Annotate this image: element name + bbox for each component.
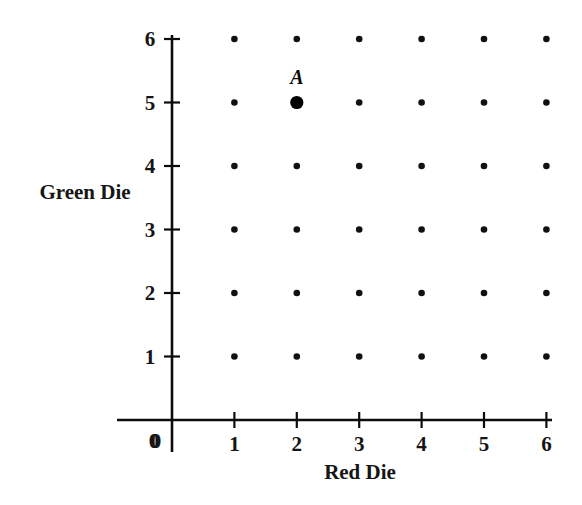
highlighted-point-marker [290, 96, 303, 109]
y-tick-label-2: 2 [145, 283, 156, 304]
outcome-dot [481, 99, 488, 106]
outcome-dot [418, 163, 425, 170]
outcome-dot [356, 36, 363, 43]
outcome-dot [231, 36, 238, 43]
outcome-dot [543, 226, 550, 233]
x-tick-label-4: 4 [416, 434, 427, 455]
outcome-dot [543, 290, 550, 297]
point-annotation-A: A [290, 67, 303, 87]
outcome-dot [481, 290, 488, 297]
outcome-dot [356, 163, 363, 170]
outcome-dot [294, 290, 301, 297]
outcome-dot [481, 353, 488, 360]
y-tick-label-4: 4 [145, 156, 156, 177]
tick-marks-group [164, 39, 546, 428]
scatter-plot-figure: 01234560123456Green DieRed DieA [0, 0, 582, 505]
outcome-dot [294, 163, 301, 170]
outcome-dot [418, 36, 425, 43]
outcome-dot [356, 290, 363, 297]
outcome-dot [481, 36, 488, 43]
outcome-dot [543, 99, 550, 106]
outcome-dot [356, 353, 363, 360]
y-tick-label-6: 6 [145, 29, 156, 50]
x-axis-title: Red Die [324, 462, 396, 483]
outcome-dot [418, 99, 425, 106]
outcome-dot [481, 226, 488, 233]
x-tick-label-6: 6 [541, 434, 552, 455]
outcome-dot [481, 163, 488, 170]
outcome-dot [231, 99, 238, 106]
y-tick-label-3: 3 [145, 219, 156, 240]
axes-group [117, 35, 552, 452]
outcome-dot [543, 163, 550, 170]
outcome-dot [418, 353, 425, 360]
x-tick-label-2: 2 [292, 434, 303, 455]
x-tick-label-5: 5 [479, 434, 490, 455]
y-tick-label-5: 5 [145, 92, 156, 113]
outcome-dot [231, 353, 238, 360]
y-tick-label-1: 1 [145, 346, 156, 367]
outcome-dot [294, 226, 301, 233]
outcome-dot [543, 36, 550, 43]
outcome-dot [418, 226, 425, 233]
y-tick-label-0: 0 [149, 431, 160, 452]
outcome-dot [543, 353, 550, 360]
outcome-dot [231, 163, 238, 170]
data-points-group [231, 36, 550, 360]
y-axis-title: Green Die [39, 182, 130, 203]
outcome-dot [356, 226, 363, 233]
outcome-dot [231, 290, 238, 297]
x-tick-label-1: 1 [229, 434, 240, 455]
x-tick-label-3: 3 [354, 434, 365, 455]
outcome-dot [294, 353, 301, 360]
outcome-dot [418, 290, 425, 297]
outcome-dot [294, 36, 301, 43]
outcome-dot [356, 99, 363, 106]
outcome-dot [231, 226, 238, 233]
